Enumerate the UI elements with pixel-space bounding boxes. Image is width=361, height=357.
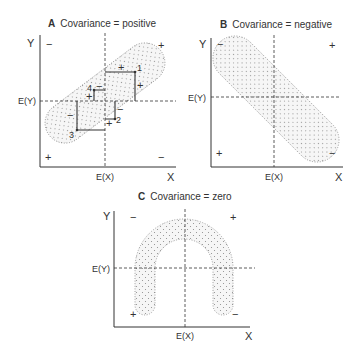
panel-c-title: CCovariance = zero	[138, 191, 232, 202]
zero-scatter-arch	[135, 219, 233, 315]
rect-sign: +	[106, 117, 112, 129]
rect-sign: +	[86, 90, 92, 102]
mean-y-label: E(Y)	[18, 96, 36, 106]
rect-sign: −	[67, 109, 73, 121]
point-label-2: 2	[116, 115, 121, 125]
quadrant-sign: +	[45, 151, 51, 163]
point-label-3: 3	[69, 130, 74, 140]
quadrant-sign: +	[329, 39, 335, 51]
quadrant-sign: −	[158, 151, 164, 163]
quadrant-sign: +	[130, 308, 136, 320]
mean-x-label: E(X)	[96, 172, 114, 182]
mean-x-label: E(X)	[265, 172, 283, 182]
rect-sign: −	[117, 103, 123, 115]
rect-sign: +	[118, 61, 124, 73]
y-axis-label: Y	[199, 38, 207, 50]
y-axis-label: Y	[27, 37, 35, 49]
quadrant-sign: −	[329, 147, 335, 159]
negative-scatter-cloud	[204, 27, 348, 171]
quadrant-sign: +	[230, 211, 236, 223]
y-axis-label: Y	[103, 210, 111, 222]
quadrant-sign: −	[130, 211, 136, 223]
mean-x-label: E(X)	[176, 331, 194, 341]
x-axis-label: X	[167, 171, 175, 183]
quadrant-sign: +	[216, 147, 222, 159]
panel-b-title: BCovariance = negative	[220, 19, 332, 30]
panel-c: CCovariance = zero Y X E(Y) E(X) − + + −	[92, 191, 255, 342]
quadrant-sign: −	[217, 38, 223, 50]
x-axis-label: X	[245, 330, 253, 342]
rect-sign: −	[96, 80, 102, 92]
panel-b: BCovariance = negative Y X E(Y) E(X) − +…	[188, 19, 348, 183]
quadrant-sign: +	[158, 39, 164, 51]
panel-a-title: ACovariance = positive	[48, 18, 157, 29]
mean-y-label: E(Y)	[92, 264, 110, 274]
x-axis-label: X	[335, 171, 343, 183]
quadrant-sign: −	[46, 38, 52, 50]
quadrant-sign: −	[232, 308, 238, 320]
point-label-1: 1	[137, 63, 142, 73]
panel-a: ACovariance = positive 1 2 3 4 + + − + −…	[18, 18, 176, 183]
mean-y-label: E(Y)	[188, 93, 206, 103]
rect-sign: +	[137, 79, 143, 91]
